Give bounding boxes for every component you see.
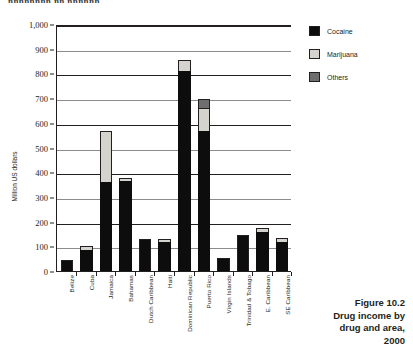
bar-segment-cocaine [119,181,132,272]
caption-line-2: drug and area, [295,322,405,335]
figure-number: Figure 10.2 [295,297,405,310]
y-axis-tick-mark [50,148,54,149]
bar-segment-cocaine [276,242,289,272]
plot-area [56,25,291,272]
x-axis-tick-mark [291,272,292,276]
caption-line-1: Drug income by [295,310,405,323]
bar-segment-cocaine [100,182,113,272]
x-axis-label: Bahamas [127,275,134,302]
bar-stack [119,178,132,272]
y-axis-tick-label: 400 [35,168,48,178]
running-head: nnnnnnnn nn nnnnnn [8,0,100,3]
y-axis: 01002003004005006007008009001,000 Millio… [0,25,54,272]
x-axis-label: SE Caribbean [284,275,291,315]
x-axis-label: Cuba [88,275,95,290]
x-axis-label: E. Caribbean [264,275,271,312]
caption-line-3: 2000 [295,335,405,348]
y-axis-tick-mark [50,74,54,75]
y-axis-tick-label: 700 [35,94,48,104]
x-axis-labels: BelizeCubaJamaicaBahamasDutch CaribbeanH… [56,275,291,353]
y-axis-tick-mark [50,123,54,124]
legend-swatch-cocaine [309,26,320,36]
x-axis-label: Belize [68,275,75,292]
bar-segment-marijuana [100,131,113,182]
x-axis-label: Puerto Rico [205,275,212,308]
y-axis-tick-mark [50,99,54,100]
bar-segment-others [198,99,211,108]
bar-stack [237,235,250,272]
y-axis-tick-mark [50,25,54,26]
bar-segment-cocaine [158,242,171,272]
x-axis-label: Trinidad & Tobago [245,275,252,327]
x-axis-line [57,271,291,272]
y-axis-tick-label: 0 [44,267,48,277]
y-axis-tick-mark [50,247,54,248]
bar-segment-cocaine [80,250,93,272]
figure-caption: Figure 10.2 Drug income by drug and area… [295,297,405,347]
x-axis-label: Haiti [166,275,173,288]
y-axis-tick-mark [50,272,54,273]
bar-stack [139,239,152,272]
bar-segment-cocaine [178,71,191,272]
x-axis-label: Dutch Caribbean [147,275,154,323]
bar-segment-cocaine [139,239,152,272]
bar-stack [276,238,289,272]
legend-swatch-marijuana [309,49,320,59]
y-axis-tick-label: 600 [35,119,48,129]
legend-item: Cocaine [309,26,358,36]
y-axis-tick-label: 500 [35,144,48,154]
x-axis-label: Dominican Republic [186,275,193,332]
legend-label: Cocaine [327,28,353,35]
y-axis-tick-label: 900 [35,45,48,55]
figure-page: nnnnnnnn nn nnnnnn 010020030040050060070… [0,0,413,355]
legend-label: Others [327,74,348,81]
y-axis-tick-mark [50,49,54,50]
bar-stack [256,228,269,272]
y-axis-tick-label: 300 [35,193,48,203]
legend-item: Others [309,72,358,82]
bar-segment-marijuana [178,60,191,71]
y-axis-tick-label: 800 [35,69,48,79]
y-axis-tick-mark [50,222,54,223]
bar-stack [158,239,171,272]
y-axis-tick-mark [50,173,54,174]
y-axis-tick-label: 1,000 [29,20,48,30]
legend: CocaineMarijuanaOthers [309,26,358,95]
bar-stack [178,60,191,272]
x-axis-label: Jamaica [107,275,114,299]
y-axis-tick-mark [50,197,54,198]
bar-segment-cocaine [198,131,211,272]
bar-segment-cocaine [256,232,269,272]
bar-stack [100,131,113,272]
bar-stack [80,246,93,272]
y-axis-tick-label: 100 [35,242,48,252]
legend-label: Marijuana [327,51,358,58]
bar-series [57,26,291,272]
y-axis-title: Million US dollars [11,117,18,237]
legend-item: Marijuana [309,49,358,59]
x-axis-label: Virgin Islands [225,275,232,313]
bar-segment-cocaine [237,235,250,272]
bar-stack [198,99,211,272]
bar-segment-marijuana [198,108,211,131]
y-axis-tick-label: 200 [35,218,48,228]
legend-swatch-others [309,72,320,82]
